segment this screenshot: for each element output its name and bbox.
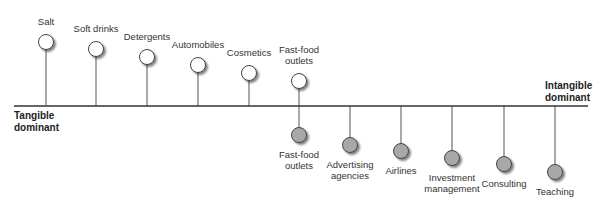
intangible-node-circle-icon xyxy=(292,128,307,143)
tangibility-spectrum-diagram: Tangible dominant Intangible dominant Sa… xyxy=(0,0,601,201)
tangible-node-circle-icon xyxy=(242,66,257,81)
tangible-item-label: Cosmetics xyxy=(227,47,271,58)
intangible-dominant-label: Intangible dominant xyxy=(545,80,592,104)
tangible-node-circle-icon xyxy=(191,58,206,73)
tangible-node-circle-icon xyxy=(89,42,104,57)
intangible-item-label: Consulting xyxy=(482,178,527,189)
tangible-item-label: Detergents xyxy=(124,31,170,42)
tangible-item-label: Automobiles xyxy=(172,39,224,50)
intangible-node-circle-icon xyxy=(394,144,409,159)
tangible-node-circle-icon xyxy=(292,74,307,89)
tangible-dominant-label: Tangible dominant xyxy=(14,110,59,134)
intangible-node-circle-icon xyxy=(548,165,563,180)
tangible-node-circle-icon xyxy=(39,35,54,50)
intangible-item-label: Advertising agencies xyxy=(327,159,374,181)
intangible-item-label: Teaching xyxy=(536,186,574,197)
intangible-node-circle-icon xyxy=(343,138,358,153)
intangible-item-label: Investment management xyxy=(424,172,479,194)
intangible-node-circle-icon xyxy=(445,151,460,166)
tangible-item-label: Fast-food outlets xyxy=(279,44,319,66)
intangible-item-label: Airlines xyxy=(385,165,416,176)
tangible-item-label: Soft drinks xyxy=(74,23,119,34)
tangible-node-circle-icon xyxy=(140,50,155,65)
tangible-item-label: Salt xyxy=(38,16,54,27)
intangible-node-circle-icon xyxy=(497,157,512,172)
intangible-item-label: Fast-food outlets xyxy=(279,149,319,171)
